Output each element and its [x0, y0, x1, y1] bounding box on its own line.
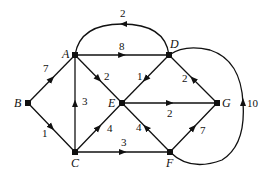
weight-g-d: 2: [182, 72, 188, 84]
node-label-c: C: [71, 156, 80, 170]
weight-d-e: 1: [137, 70, 143, 82]
weight-f-d: 10: [247, 97, 259, 109]
weight-c-f: 3: [121, 136, 127, 148]
node-e: [119, 100, 125, 106]
node-label-e: E: [107, 96, 116, 110]
node-c: [72, 149, 78, 155]
arrow-f-d: [240, 98, 246, 106]
edge-f-g: [170, 103, 217, 152]
edge-b-a: [28, 55, 75, 103]
node-f: [167, 149, 173, 155]
node-g: [214, 100, 220, 106]
edge-c-e: [75, 103, 122, 152]
edges: [28, 21, 246, 165]
node-label-g: G: [222, 96, 231, 110]
node-label-a: A: [61, 47, 70, 61]
directed-graph: 7 1 8 2 2 3 4 3 1 2 2 4 7 10 A B C D E F…: [0, 0, 269, 172]
weight-a-e: 2: [104, 70, 110, 82]
node-a: [72, 52, 78, 58]
edge-f-e: [122, 103, 170, 152]
node-b: [25, 100, 31, 106]
edge-b-c: [28, 103, 75, 152]
edge-d-e: [122, 55, 169, 103]
node-label-b: B: [14, 96, 22, 110]
node-d: [166, 52, 172, 58]
weight-f-g: 7: [200, 124, 206, 136]
arrow-d-a: [120, 21, 127, 27]
weight-e-g: 2: [167, 107, 173, 119]
weight-f-e: 4: [136, 121, 142, 133]
weight-c-a: 3: [82, 95, 88, 107]
weight-b-c: 1: [42, 127, 48, 139]
weight-a-d: 8: [119, 40, 125, 52]
node-label-f: F: [165, 156, 174, 170]
weight-c-e: 4: [107, 122, 113, 134]
node-label-d: D: [169, 37, 179, 51]
weight-b-a: 7: [43, 62, 49, 74]
edge-g-d: [169, 55, 217, 103]
weight-d-a: 2: [120, 7, 126, 19]
